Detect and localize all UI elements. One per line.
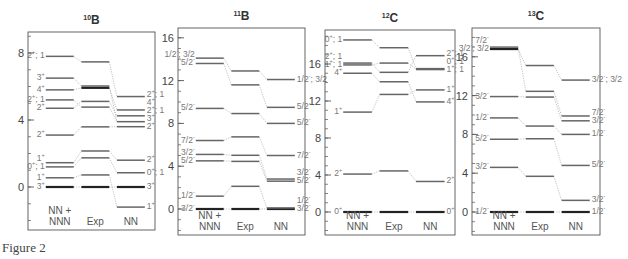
svg-text:2+​: 2+​ (334, 168, 342, 179)
panel-13c: 13C04812161/2-​3/2-​5/2-​1/2-​3/2-​3/2-​… (456, 9, 622, 235)
svg-text:1/2-​: 1/2-​ (181, 190, 195, 201)
y-tick-label: 4 (168, 160, 174, 172)
panel-title: 12C (382, 11, 399, 25)
column-label-exp: Exp (87, 216, 105, 227)
panel-title: 10B (83, 13, 100, 27)
column-label-exp: Exp (385, 221, 403, 232)
svg-text:2+​; 1: 2+​; 1 (147, 88, 165, 99)
panel-11b: 11B04812163/2-​1/2-​5/2-​3/2-​7/2-​5/2-​… (162, 9, 328, 235)
column-label-nnn: NN +NNN (48, 205, 71, 227)
svg-text:1+​: 1+​ (447, 83, 455, 94)
panel-title: 11B (233, 9, 249, 23)
y-tick-label: 0 (18, 181, 24, 193)
svg-text:1/2-​: 1/2-​ (592, 205, 606, 216)
svg-text:5/2-​: 5/2-​ (297, 117, 311, 128)
svg-text:1/2-​: 1/2-​ (475, 111, 489, 122)
svg-text:3/2-​: 3/2-​ (475, 161, 489, 172)
svg-text:2+​; 1: 2+​; 1 (27, 50, 45, 61)
column-label-nn: NN (568, 221, 582, 232)
y-tick-label: 4 (315, 169, 321, 181)
svg-text:7/2-​: 7/2-​ (475, 34, 489, 45)
svg-text:7/2-​: 7/2-​ (297, 149, 311, 160)
svg-text:2+​: 2+​ (147, 154, 155, 165)
panel-title: 13C (528, 9, 545, 23)
y-tick-label: 8 (462, 128, 468, 140)
y-tick-label: 16 (309, 58, 321, 70)
figure-caption: Figure 2 (2, 240, 46, 256)
svg-text:3+​: 3+​ (37, 180, 45, 191)
svg-text:1/2-​: 1/2-​ (475, 205, 489, 216)
figure-level-schemes: 10B0483+​1+​0+​; 11+​2+​2+​2+​; 14+​3+​2… (0, 0, 628, 259)
svg-text:3+​: 3+​ (37, 72, 45, 83)
svg-text:4+​: 4+​ (37, 83, 45, 94)
svg-text:5/2-​: 5/2-​ (181, 102, 195, 113)
svg-text:2+​: 2+​ (37, 129, 45, 140)
svg-text:3/2-​; 3/2: 3/2-​; 3/2 (592, 74, 622, 85)
svg-text:3/2-​: 3/2-​ (297, 167, 311, 178)
svg-text:1/2-​: 1/2-​ (297, 194, 311, 205)
svg-text:1/2-​; 3/2: 1/2-​; 3/2 (297, 73, 327, 84)
column-label-nn: NN (124, 216, 138, 227)
svg-text:5/2-​: 5/2-​ (475, 133, 489, 144)
y-tick-label: 8 (18, 47, 24, 59)
svg-text:0+​: 0+​ (334, 205, 342, 216)
svg-text:3/2-​: 3/2-​ (181, 146, 195, 157)
svg-text:1/2-​; 3/2: 1/2-​; 3/2 (165, 49, 195, 60)
svg-text:2+​; 1: 2+​; 1 (27, 93, 45, 104)
column-label-nnn: NN +NNN (198, 210, 221, 232)
column-label-exp: Exp (531, 221, 549, 232)
svg-text:7/2-​: 7/2-​ (592, 106, 606, 117)
svg-text:1+​: 1+​ (334, 106, 342, 117)
y-tick-label: 12 (456, 90, 468, 102)
svg-text:0+​; 1: 0+​; 1 (147, 166, 165, 177)
y-tick-label: 4 (18, 114, 24, 126)
column-label-nn: NN (274, 221, 288, 232)
svg-text:3+​: 3+​ (147, 180, 155, 191)
y-tick-label: 8 (168, 117, 174, 129)
svg-text:1/2-​: 1/2-​ (592, 128, 606, 139)
svg-text:3/2-​: 3/2-​ (181, 202, 195, 213)
svg-text:3/2-​: 3/2-​ (592, 194, 606, 205)
y-tick-label: 4 (462, 167, 468, 179)
y-tick-label: 12 (309, 95, 321, 107)
svg-text:7/2-​: 7/2-​ (181, 134, 195, 145)
svg-text:3/2-​: 3/2-​ (475, 90, 489, 101)
svg-text:2+​: 2+​ (447, 175, 455, 186)
y-tick-label: 0 (168, 203, 174, 215)
panel-12c: 12C04812160+​2+​1+​4+​1+​; 12+​; 10+​; 1… (309, 11, 465, 235)
column-label-nnn: NN +NNN (492, 210, 515, 232)
svg-text:1+​: 1+​ (147, 201, 155, 212)
svg-text:0+​: 0+​ (447, 205, 455, 216)
y-tick-label: 16 (162, 32, 174, 44)
y-tick-label: 0 (315, 206, 321, 218)
svg-text:5/2-​: 5/2-​ (592, 159, 606, 170)
column-label-nn: NN (423, 221, 437, 232)
svg-text:2+​; 1: 2+​; 1 (325, 50, 343, 61)
svg-text:0+​; 1: 0+​; 1 (325, 33, 343, 44)
y-tick-label: 8 (315, 132, 321, 144)
svg-text:4+​: 4+​ (447, 95, 455, 106)
panel-10b: 10B0483+​1+​0+​; 11+​2+​2+​2+​; 14+​3+​2… (18, 13, 165, 230)
y-tick-label: 12 (162, 75, 174, 87)
column-label-exp: Exp (237, 221, 255, 232)
y-tick-label: 0 (462, 206, 468, 218)
column-label-nnn: NN +NNN (346, 210, 369, 232)
